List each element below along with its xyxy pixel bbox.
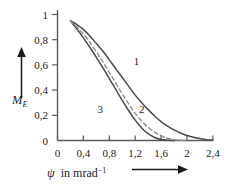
x-tick-label-1.2: 1,2	[128, 147, 142, 159]
curve-series-1	[70, 21, 212, 140]
x-tick-label-0.4: 0,4	[77, 147, 91, 159]
x-axis-tick-labels: 0 0,4 0,8 1,2 1,6 2 2,4	[55, 147, 221, 159]
x-axis-label-unit: in mrad	[61, 166, 98, 180]
x-axis-label-exponent: −1	[98, 166, 107, 175]
x-tick-label-2.4: 2,4	[206, 147, 220, 159]
curve-labels: 1 2 3	[97, 55, 144, 116]
y-axis-label-base: M	[11, 93, 23, 107]
y-tick-label-0.8: 0,8	[34, 34, 48, 46]
y-tick-label-0.6: 0,6	[34, 59, 48, 71]
y-axis-label: ME	[11, 93, 27, 109]
data-curves	[70, 21, 212, 141]
x-axis-label-symbol: ψ	[47, 166, 55, 180]
x-axis-label: ψ in mrad−1	[47, 166, 106, 180]
x-tick-label-2: 2	[184, 147, 190, 159]
y-tick-label-0.2: 0,2	[34, 109, 48, 121]
y-axis-direction-arrow-head	[17, 47, 26, 57]
curve-label-1: 1	[134, 55, 140, 67]
y-axis-label-group: ME	[11, 47, 27, 109]
x-tick-label-0.8: 0,8	[102, 147, 116, 159]
y-axis-label-subscript: E	[21, 100, 27, 109]
x-tick-label-1.6: 1,6	[154, 147, 168, 159]
y-axis-tick-labels: 1 0,8 0,6 0,4 0,2 0	[34, 9, 48, 147]
curve-label-2: 2	[139, 103, 145, 115]
x-axis-label-group: ψ in mrad−1	[47, 165, 188, 180]
chart-figure: 1 0,8 0,6 0,4 0,2 0 0 0,4 0,8 1,2 1,6 2 …	[0, 0, 228, 190]
curve-label-3: 3	[97, 103, 103, 115]
x-tick-label-0: 0	[55, 147, 61, 159]
chart-svg: 1 0,8 0,6 0,4 0,2 0 0 0,4 0,8 1,2 1,6 2 …	[0, 0, 228, 190]
y-tick-label-1: 1	[43, 9, 49, 21]
curve-series-3	[70, 21, 174, 141]
x-axis-direction-arrow-head	[178, 165, 188, 174]
curve-series-2	[70, 21, 187, 141]
y-tick-label-0: 0	[43, 135, 49, 147]
y-tick-label-0.4: 0,4	[34, 84, 48, 96]
y-axis-ticks	[52, 15, 58, 116]
